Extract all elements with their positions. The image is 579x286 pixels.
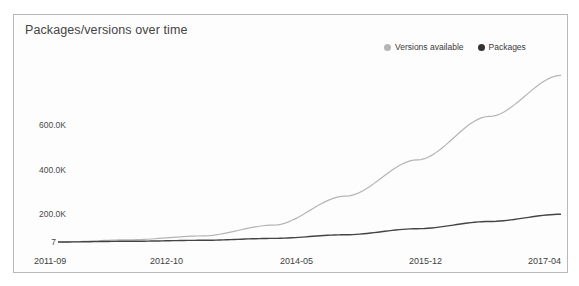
screenshot-root: Packages/versions over time Versions ava… [0, 0, 579, 286]
chart-plot-area [14, 15, 569, 274]
line-series-versions-available [58, 75, 561, 242]
line-series-packages [58, 214, 561, 242]
chart-card: Packages/versions over time Versions ava… [13, 14, 568, 273]
